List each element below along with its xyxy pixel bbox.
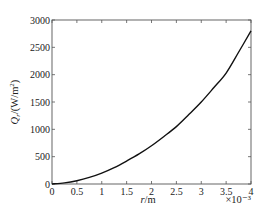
y-tick-label: 2500 <box>30 42 50 53</box>
plot-border <box>52 20 251 184</box>
data-series-line <box>52 31 251 184</box>
x-axis-ticks: 00.511.522.533.54 <box>50 20 254 197</box>
y-axis-label-close: ) <box>9 79 21 83</box>
y-tick-label: 1500 <box>30 97 50 108</box>
x-tick-label: 0 <box>50 186 55 197</box>
y-tick-label: 2000 <box>30 69 50 80</box>
x-tick-label: 0.5 <box>71 186 84 197</box>
y-tick-label: 3000 <box>30 15 50 26</box>
y-axis-ticks: 050010001500200025003000 <box>30 15 251 190</box>
plot-frame <box>52 20 251 184</box>
y-tick-label: 0 <box>45 179 50 190</box>
x-axis-multiplier: ×10⁻³ <box>225 194 251 205</box>
x-axis-label-unit: /m <box>145 194 156 205</box>
x-tick-label: 1 <box>99 186 104 197</box>
x-tick-label: 2.5 <box>170 186 183 197</box>
x-axis-label: r/m <box>140 194 155 205</box>
y-tick-label: 500 <box>35 151 50 162</box>
x-tick-label: 1.5 <box>120 186 133 197</box>
x-tick-label: 3 <box>199 186 204 197</box>
y-axis-label: Qr/(W/m2) <box>8 79 22 124</box>
y-tick-label: 1000 <box>30 124 50 135</box>
line-chart: 00.511.522.533.54 0500100015002000250030… <box>0 0 269 219</box>
y-axis-label-unit: /(W/m <box>9 87 21 114</box>
